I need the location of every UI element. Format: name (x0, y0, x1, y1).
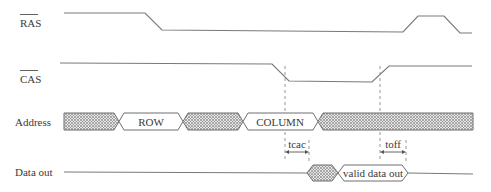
data-invalid (307, 165, 338, 181)
column-label: COLUMN (256, 116, 304, 128)
data-idle-2 (408, 173, 473, 174)
toff-label: toff (385, 138, 401, 150)
data-out-bus: valid data out (64, 165, 473, 181)
address-label: Address (15, 116, 51, 128)
tcac-annotation: tcac (285, 138, 309, 154)
cas-label: CAS (20, 73, 41, 85)
valid-data-label: valid data out (343, 167, 403, 179)
address-invalid-1 (64, 113, 119, 130)
address-invalid-2 (183, 113, 243, 130)
row-label: ROW (138, 116, 164, 128)
cas-waveform (60, 63, 472, 82)
ras-label: RAS (20, 17, 41, 29)
timing-diagram: RAS CAS Address Data out ROW COLUMN tcac… (0, 0, 491, 192)
data-idle-1 (64, 172, 307, 173)
address-invalid-3 (318, 113, 473, 130)
ras-waveform (64, 13, 472, 33)
address-bus: ROW COLUMN (64, 113, 473, 130)
data-out-label: Data out (15, 166, 53, 178)
signal-label-cas: CAS (20, 71, 41, 86)
tcac-label: tcac (288, 138, 306, 150)
toff-annotation: toff (380, 138, 406, 154)
signal-label-ras: RAS (20, 15, 41, 30)
